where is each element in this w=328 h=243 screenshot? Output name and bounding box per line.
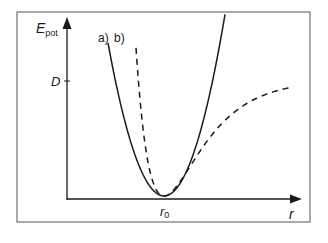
curve-b-anharmonic — [136, 48, 290, 196]
x-axis-label: r — [289, 206, 295, 222]
potential-energy-diagram: Epot D a) b) r0 r — [0, 0, 328, 243]
curve-a-label: a) — [98, 31, 109, 45]
figure-frame — [17, 12, 310, 222]
d-tick-label: D — [51, 74, 60, 89]
curve-b-label: b) — [114, 31, 125, 45]
x-tick-label: r0 — [160, 204, 169, 220]
y-axis-label: Epot — [36, 20, 58, 38]
y-axis-arrowhead-icon — [63, 17, 72, 29]
curve-a-harmonic — [108, 14, 225, 196]
x-axis-arrowhead-icon — [290, 195, 302, 204]
